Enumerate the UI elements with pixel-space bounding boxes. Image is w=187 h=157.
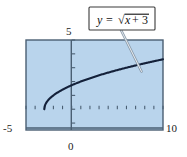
radicand-constant: 3 [142, 13, 148, 27]
y-axis-max-label: 5 [66, 25, 72, 37]
plot-area-background [26, 40, 163, 130]
x-axis-min-label: -5 [3, 122, 13, 134]
radicand-plus-sign: + [132, 13, 139, 27]
origin-label: 0 [68, 140, 74, 152]
radicand-x: x [124, 13, 131, 27]
radical-sign: √ [118, 13, 125, 27]
figure-container: y = √ x + 3 -5 10 5 0 [0, 0, 187, 157]
graph-svg: y = √ x + 3 -5 10 5 0 [0, 0, 187, 157]
equation-equals-sign: = [106, 13, 113, 27]
equation-y-symbol: y [96, 13, 103, 27]
x-axis-max-label: 10 [166, 122, 178, 134]
